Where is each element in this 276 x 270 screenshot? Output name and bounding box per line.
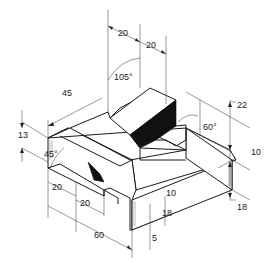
dim-angle-60: 60° [203, 122, 217, 132]
dim-angle-45: 45° [44, 149, 58, 159]
isometric-drawing: 20 20 105° 45 13 45° 20 20 60 60° 22 10 … [0, 0, 276, 270]
dim-offset-10: 10 [251, 147, 261, 157]
dim-height-13: 13 [18, 130, 28, 140]
dim-step-20-a: 20 [52, 182, 62, 192]
dim-step-20-b: 20 [80, 198, 90, 208]
dim-height-22: 22 [237, 100, 247, 110]
dim-front-18: 18 [162, 208, 172, 218]
dim-length-60: 60 [94, 230, 104, 240]
dim-front-5: 5 [152, 233, 157, 243]
dim-height-18-right: 18 [237, 202, 247, 212]
dim-angle-105: 105° [114, 72, 133, 82]
dim-top-left-20: 20 [118, 28, 128, 38]
dim-top-right-20: 20 [146, 40, 156, 50]
dim-depth-45: 45 [62, 88, 72, 98]
dim-front-10: 10 [166, 188, 176, 198]
